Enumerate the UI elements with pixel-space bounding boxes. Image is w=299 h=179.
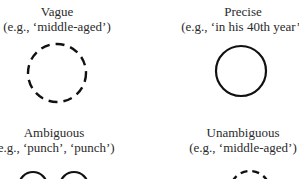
vague-dashed-circle-icon	[28, 44, 86, 102]
precise-solid-circle-icon	[216, 46, 266, 96]
diagram-canvas	[0, 0, 299, 179]
ambiguous-circle-right-icon	[60, 172, 88, 179]
unambiguous-dashed-circle-icon	[230, 171, 270, 179]
ambiguous-circle-left-icon	[19, 172, 47, 179]
